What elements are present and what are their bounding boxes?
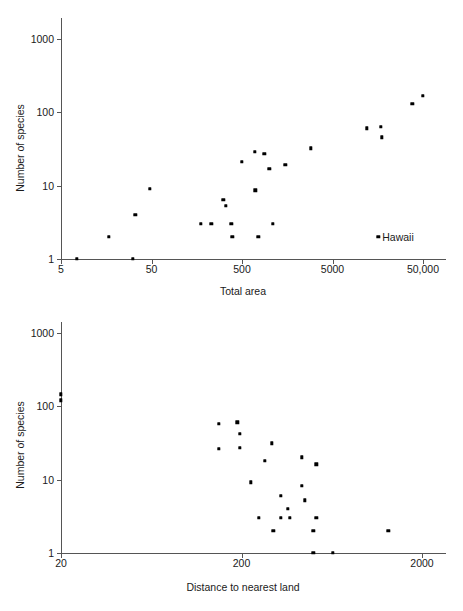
data-point [279, 516, 282, 519]
data-point [365, 127, 368, 130]
x-axis-tick-label: 50 [146, 264, 158, 275]
data-point [240, 160, 243, 163]
data-point [303, 499, 306, 502]
x-axis-tick-label: 500 [233, 264, 251, 275]
data-point [199, 222, 202, 225]
y-axis-line [61, 18, 62, 259]
data-point [222, 198, 225, 201]
data-point [377, 235, 380, 238]
data-point [379, 125, 382, 128]
data-point [272, 529, 275, 532]
data-point [59, 392, 62, 395]
data-point [59, 398, 62, 401]
data-point [75, 257, 78, 260]
data-point [238, 446, 241, 449]
y-axis-tick [57, 553, 62, 554]
data-point [288, 516, 291, 519]
x-axis-tick-label: 5 [58, 264, 64, 275]
y-axis-tick [57, 39, 62, 40]
y-axis-tick-label: 1 [6, 254, 54, 265]
data-point [236, 421, 239, 424]
data-point [230, 222, 233, 225]
x-axis-tick-label: 20 [55, 558, 67, 569]
plot-area-bottom: 2020020001101001000Distance to nearest l… [0, 305, 463, 611]
y-axis-line [61, 322, 62, 553]
data-point [283, 163, 286, 166]
data-point [238, 432, 241, 435]
data-point [249, 480, 252, 483]
chart-species-vs-total-area: 550500500050,0001101001000Total areaNumb… [0, 0, 463, 305]
data-point [131, 257, 134, 260]
data-point [271, 222, 274, 225]
y-axis-tick-label: 1000 [6, 33, 54, 44]
data-point [387, 529, 390, 532]
data-point [263, 152, 266, 155]
data-point [312, 529, 315, 532]
data-point [210, 222, 213, 225]
data-point [217, 422, 220, 425]
data-point [224, 204, 227, 207]
chart-species-vs-distance: 2020020001101001000Distance to nearest l… [0, 305, 463, 611]
data-point [315, 463, 318, 466]
y-axis-tick [57, 186, 62, 187]
x-axis-line [61, 259, 446, 260]
data-point [331, 551, 334, 554]
data-point [380, 136, 383, 139]
data-point [286, 507, 289, 510]
data-point [257, 235, 260, 238]
data-point [279, 494, 282, 497]
point-annotation-label: Hawaii [382, 231, 414, 243]
data-point [309, 147, 312, 150]
data-point [263, 459, 266, 462]
x-axis-tick-label: 2000 [410, 558, 433, 569]
y-axis-title: Number of species [14, 104, 26, 192]
y-axis-tick-label: 1000 [6, 327, 54, 338]
y-axis-tick-label: 1 [6, 548, 54, 559]
x-axis-tick-label: 5000 [321, 264, 344, 275]
x-axis-tick-label: 50,000 [407, 264, 439, 275]
x-axis-tick-label: 200 [233, 558, 251, 569]
data-point [300, 484, 303, 487]
data-point [270, 442, 273, 445]
x-axis-line [61, 553, 446, 554]
data-point [421, 94, 424, 97]
x-axis-title: Distance to nearest land [186, 581, 299, 593]
data-point [133, 213, 136, 216]
data-point [257, 516, 260, 519]
plot-area-top: 550500500050,0001101001000Total areaNumb… [0, 0, 463, 305]
y-axis-tick [57, 333, 62, 334]
y-axis-tick [57, 112, 62, 113]
y-axis-tick [57, 480, 62, 481]
data-point [254, 189, 257, 192]
data-point [312, 551, 315, 554]
data-point [148, 187, 151, 190]
data-point [268, 167, 271, 170]
data-point [107, 235, 110, 238]
data-point [315, 516, 318, 519]
data-point [253, 150, 256, 153]
y-axis-title: Number of species [14, 401, 26, 489]
data-point [300, 456, 303, 459]
y-axis-tick [57, 406, 62, 407]
data-point [231, 235, 234, 238]
data-point [411, 102, 414, 105]
data-point [217, 447, 220, 450]
x-axis-title: Total area [220, 285, 266, 297]
y-axis-tick [57, 259, 62, 260]
